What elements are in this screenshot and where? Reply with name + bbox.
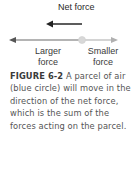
smaller-force-label: Smaller force	[82, 46, 124, 68]
larger-force-label-line2: force	[28, 57, 68, 68]
net-force-label: Net force	[58, 2, 95, 12]
figure-caption: FIGURE 6-2 A parcel of air (blue circle)…	[10, 70, 132, 132]
air-parcel-icon	[79, 37, 86, 44]
figure-number: FIGURE 6-2	[10, 71, 63, 81]
smaller-force-arrow-icon	[84, 37, 118, 43]
net-force-arrow-icon	[46, 21, 82, 28]
larger-force-arrow-icon	[9, 37, 80, 43]
larger-force-label: Larger force	[28, 46, 68, 68]
force-diagram: Net force Larger force Smaller force	[0, 0, 132, 70]
larger-force-label-line1: Larger	[28, 46, 68, 57]
smaller-force-label-line1: Smaller	[82, 46, 124, 57]
smaller-force-label-line2: force	[82, 57, 124, 68]
